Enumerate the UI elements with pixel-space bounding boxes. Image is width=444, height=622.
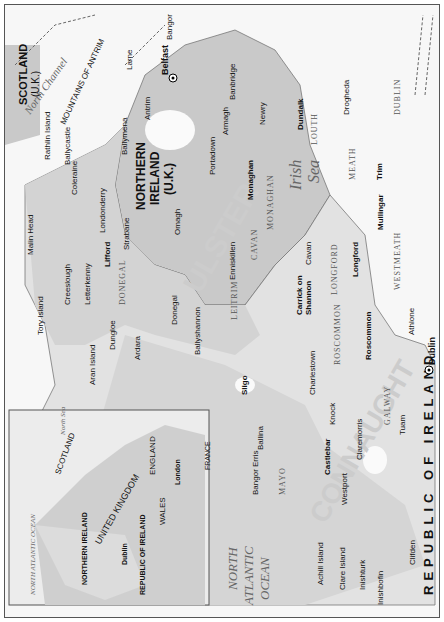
- city-belfast: Belfast: [160, 45, 170, 75]
- town-charlestown: Charlestown: [308, 351, 317, 395]
- inset-england: ENGLAND: [148, 436, 157, 475]
- county-longford: LONGFORD: [330, 243, 339, 295]
- town-ballyshannon: Ballyshannon: [193, 307, 202, 355]
- town-longford: Longford: [351, 242, 360, 277]
- county-meath: MEATH: [348, 147, 357, 180]
- county-westmeath: WESTMEATH: [393, 232, 402, 290]
- county-roscommon: ROSCOMMON: [333, 304, 342, 365]
- town-strabane: Strabane: [122, 217, 131, 250]
- town-antrim: Antrim: [143, 97, 152, 120]
- inset-roi: REPUBLIC OF IRELAND: [139, 515, 146, 596]
- county-mayo: MAYO: [278, 467, 287, 495]
- town-trim: Trim: [375, 163, 384, 180]
- town-ballycastle: Ballycastle: [63, 126, 72, 165]
- town-newry: Newry: [258, 102, 267, 125]
- island-aran: Aran Island: [88, 345, 97, 385]
- town-omagh: Omagh: [173, 209, 182, 235]
- town-coleraine: Coleraine: [70, 160, 79, 195]
- town-ardara: Ardara: [133, 335, 142, 360]
- town-larne: Larne: [125, 49, 134, 70]
- town-mullingar: Mullingar: [376, 194, 385, 230]
- town-castlebar: Castlebar: [323, 439, 332, 475]
- county-leitrim: LEITRIM: [230, 281, 239, 320]
- county-louth: LOUTH: [310, 113, 319, 145]
- town-enniskillen: Enniskillen: [228, 242, 237, 280]
- town-athlone: Athlone: [407, 307, 416, 335]
- town-ballina: Ballina: [256, 425, 265, 450]
- town-banbridge: Banbridge: [228, 63, 237, 100]
- label-sea: Sea: [305, 160, 322, 183]
- town-drogheda: Drogheda: [342, 79, 351, 115]
- island-achill: Achill Island: [316, 542, 325, 585]
- town-donegal: Donegal: [170, 295, 179, 325]
- town-monaghan: Monaghan: [246, 160, 255, 200]
- label-scotland: SCOTLAND: [17, 44, 29, 105]
- inset-ni: NORTHERN IRELAND: [81, 512, 88, 585]
- town-londonderry: Londonderry: [98, 188, 107, 233]
- town-portadown: Portadown: [208, 137, 217, 175]
- town-bangor-erris: Bangor Erris: [251, 451, 260, 495]
- town-lifford: Lifford: [103, 242, 112, 267]
- label-irish-sea: Irish: [287, 160, 304, 191]
- town-shannon: Shannon: [304, 281, 313, 315]
- inset-north-sea: North Sea: [59, 406, 67, 436]
- town-knock: Knock: [328, 402, 337, 425]
- county-donegal: DONEGAL: [118, 259, 127, 305]
- inset-london: London: [174, 459, 181, 485]
- town-tuam: Tuam: [398, 415, 407, 435]
- town-dungloe: Dungloe: [108, 320, 117, 350]
- inset-atlantic: NORTH ATLANTIC OCEAN: [29, 514, 37, 596]
- town-westport: Westport: [340, 472, 349, 505]
- map-frame: SCOTLAND (U.K.) NORTHERN IRELAND (U.K.) …: [4, 4, 440, 618]
- label-atlantic: ATLANTIC: [241, 546, 256, 606]
- label-north-atlantic: NORTH: [225, 547, 240, 591]
- town-clifden: Clifden: [408, 540, 417, 565]
- label-northern-ireland: NORTHERN: [134, 142, 148, 210]
- town-armagh: Armagh: [221, 107, 230, 135]
- town-bangor: Bangor: [165, 14, 174, 40]
- city-dublin: Dublin: [427, 337, 437, 365]
- label-ireland: IRELAND: [148, 151, 162, 205]
- label-republic: REPUBLIC OF IRELAND: [421, 351, 436, 596]
- island-inishturk: Inishturk: [358, 559, 367, 590]
- town-ballymena: Ballymena: [120, 117, 129, 155]
- town-creeslough: Creeslough: [63, 264, 72, 305]
- town-roscommon: Roscommon: [364, 311, 373, 360]
- town-dundalk: Dundalk: [296, 98, 305, 130]
- town-sligo: Sligo: [240, 375, 249, 395]
- island-clare: Clare Island: [338, 547, 347, 590]
- town-claremorris: Claremorris: [355, 419, 364, 460]
- town-cavan: Cavan: [304, 242, 313, 265]
- ireland-map: SCOTLAND (U.K.) NORTHERN IRELAND (U.K.) …: [5, 5, 439, 617]
- point-malin-head: Malin Head: [26, 215, 35, 255]
- town-carrick: Carrick on: [295, 275, 304, 315]
- label-ocean: OCEAN: [257, 556, 272, 600]
- inset-france: FRANCE: [204, 441, 211, 470]
- island-tory: Tory Island: [36, 296, 45, 335]
- town-letterkenny: Letterkenny: [83, 263, 92, 305]
- county-dublin: DUBLIN: [393, 79, 402, 115]
- island-inishbofin: Inishbofin: [376, 571, 385, 605]
- county-monaghan: MONAGHAN: [266, 174, 275, 230]
- county-cavan: CAVAN: [250, 229, 259, 260]
- label-uk: (U.K.): [162, 163, 176, 195]
- island-rathlin: Rathlin Island: [43, 112, 52, 160]
- inset-wales: WALES: [158, 497, 167, 525]
- county-galway: GALWAY: [383, 386, 392, 425]
- inset-dublin: Dublin: [121, 543, 128, 565]
